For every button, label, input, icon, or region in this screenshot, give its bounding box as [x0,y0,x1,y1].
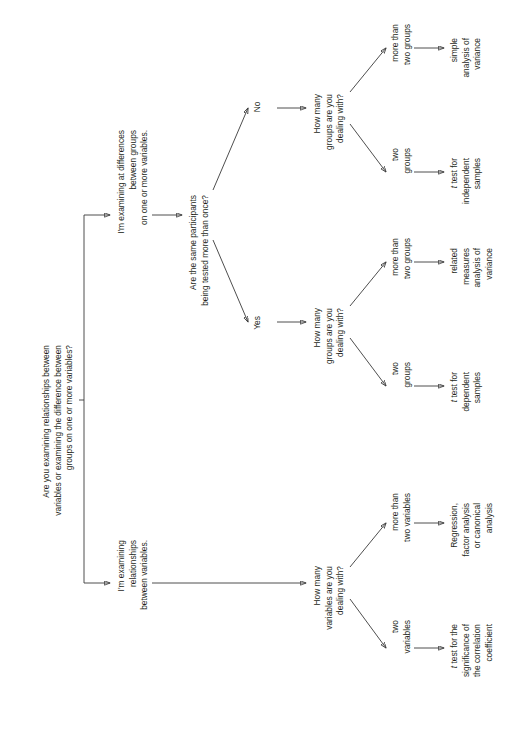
option-yes-more-than-two-groups: more than two groups [390,238,413,300]
result-related-measures-anova: related measures analysis of variance [449,248,495,314]
wire-root-split [79,215,110,583]
root-question: Are you examining relationships between … [41,345,76,530]
option-more-than-two-variables: more than two variables [390,493,413,563]
node-branch-relationships: I'm examining relationships between vari… [116,540,151,655]
italic-t-glyph: t [449,400,459,402]
option-no-two-groups: two groups [390,148,413,210]
result-text: test for the significance of the correla… [449,624,494,677]
result-simple-analysis-of-variance: simple analysis of variance [449,38,484,100]
result-t-test-independent-samples: t test for independent samples [449,158,484,224]
option-no-more-than-two-groups: more than two groups [390,24,413,86]
result-t-test-dependent-samples: t test for dependent samples [449,372,484,438]
wire-two-variables [350,599,386,648]
result-text: test for independent samples [449,158,482,204]
result-regression-factor-canonical: Regression, factor analysis or canonical… [449,503,495,575]
option-yes-two-groups: two groups [390,362,413,424]
wire-more-variables [350,523,386,567]
italic-t-glyph: t [449,666,459,668]
node-branch-differences: I'm examining at differences between gro… [116,130,151,290]
flowchart-canvas: Are you examining relationships between … [0,0,518,751]
italic-t-glyph: t [449,186,459,188]
result-text: test for dependent samples [449,372,482,412]
branch-label-yes: Yes [252,310,264,336]
wire-no-two-groups [350,124,386,172]
wire-yes-two-groups [350,338,386,386]
wire-repeat-yes [213,240,248,322]
question-how-many-variables: How many variables are you dealing with? [312,566,347,654]
branch-label-no: No [252,96,264,118]
question-repeated-measures: Are the same participants being tested m… [188,195,211,330]
wire-yes-more-groups [350,262,386,306]
wire-repeat-no [213,108,248,190]
question-how-many-groups-yes: How many groups are you dealing with? [312,308,347,392]
option-two-variables: two variables [390,620,413,690]
result-t-test-correlation-coefficient: t test for the significance of the corre… [449,624,495,700]
wire-no-more-groups [350,48,386,92]
question-how-many-groups-no: How many groups are you dealing with? [312,94,347,178]
